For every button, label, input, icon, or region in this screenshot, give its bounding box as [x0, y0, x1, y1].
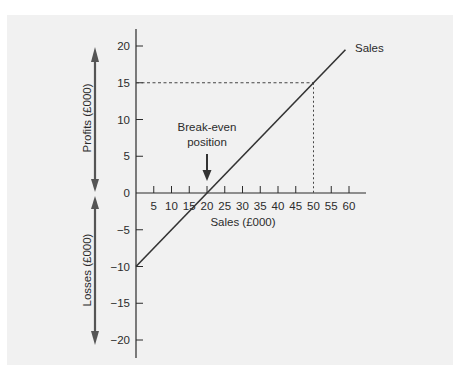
losses-axis-title: Losses (£000)	[81, 233, 93, 306]
break-even-chart: 20 15 10 5 0 −5 −10 −15 −20 5 10 15 20 2…	[0, 0, 460, 377]
x-tick-label: 20	[201, 200, 214, 212]
sales-line	[136, 50, 345, 267]
x-tick-label: 5	[151, 200, 157, 212]
breakeven-label-line1: Break-even	[178, 121, 237, 133]
breakeven-arrow-icon	[203, 154, 212, 181]
profits-axis-title: Profits (£000)	[81, 83, 93, 152]
x-axis-title: Sales (£000)	[210, 216, 275, 228]
x-tick-label: 10	[165, 200, 178, 212]
sales-line-label: Sales	[355, 42, 384, 54]
y-tick-label: −5	[117, 224, 130, 236]
y-tick-labels: 20 15 10 5 0 −5 −10 −15 −20	[110, 40, 130, 346]
x-tick-label: 30	[236, 200, 249, 212]
y-tick-label: 20	[117, 40, 130, 52]
x-tick-label: 25	[218, 200, 231, 212]
y-tick-label: 0	[124, 187, 130, 199]
y-tick-label: 15	[117, 77, 130, 89]
y-tick-label: −10	[110, 261, 130, 273]
y-tick-label: −20	[110, 334, 130, 346]
x-tick-label: 50	[307, 200, 320, 212]
y-tick-label: −15	[110, 297, 130, 309]
x-tick-labels: 5 10 15 20 25 30 35 40 45 50 55 60	[151, 200, 356, 212]
x-tick-label: 45	[289, 200, 302, 212]
y-tick-label: 5	[124, 150, 130, 162]
x-tick-label: 40	[272, 200, 285, 212]
x-tick-label: 55	[325, 200, 338, 212]
breakeven-label-line2: position	[187, 136, 227, 148]
y-tick-label: 10	[117, 114, 130, 126]
x-tick-label: 60	[343, 200, 356, 212]
x-ticks	[154, 186, 349, 193]
x-tick-label: 35	[254, 200, 267, 212]
